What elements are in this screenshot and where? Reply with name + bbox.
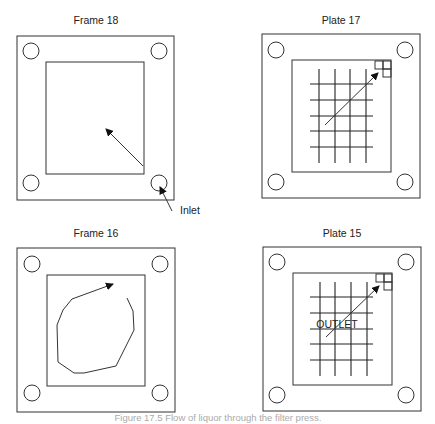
inlet-port [151,175,167,191]
flow-arrow [106,129,143,166]
port-hole [269,387,285,403]
inlet-label: Inlet [180,204,200,216]
port-hole [24,256,40,272]
port-hole [152,256,168,272]
port-hole [268,42,284,58]
frame-outer [17,248,175,412]
port-hole [151,43,167,59]
frame-inner-chamber [47,275,145,386]
port-hole [152,385,168,401]
frame-outer [17,36,174,200]
swirl-flow-arrow [57,284,134,373]
panel-title: Plate 17 [322,14,361,26]
port-hole [269,254,285,270]
port-hole [398,387,414,403]
port-hole [397,174,413,190]
panel-title: Plate 15 [323,227,362,239]
panel-title: Frame 18 [74,14,119,26]
panel-frame-16: Frame 16 [17,227,175,412]
frame-inner-chamber [46,62,144,174]
filter-press-diagram: Frame 18 Inlet Plate 17 [0,0,435,424]
outlet-channel-squares [376,274,392,290]
port-hole [397,42,413,58]
port-hole [398,254,414,270]
panel-frame-18: Frame 18 Inlet [17,14,200,216]
flow-arrow [325,73,378,125]
inlet-pointer-arrow [160,187,172,211]
panel-plate-17: Plate 17 [262,14,420,198]
port-hole [23,43,39,59]
panel-title: Frame 16 [74,227,119,239]
panel-plate-15: Plate 15 OUTLET [263,227,421,411]
figure-caption: Figure 17.5 Flow of liquor through the f… [115,412,322,423]
port-hole [23,175,39,191]
outlet-channel-squares [375,61,391,77]
drainage-grid [310,69,373,163]
port-hole [24,385,40,401]
port-hole [268,174,284,190]
outlet-label: OUTLET [316,318,358,330]
